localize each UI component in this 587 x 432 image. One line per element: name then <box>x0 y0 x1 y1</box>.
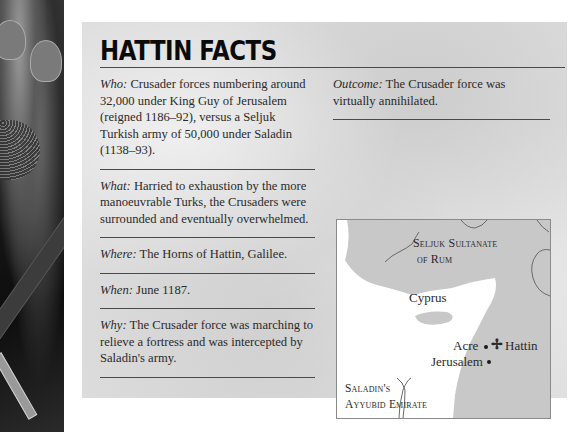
map-label-saladins: Saladin's <box>345 382 390 394</box>
map-label-acre: Acre <box>453 338 478 354</box>
facts-right-column: Outcome: The Crusader force was virtuall… <box>333 68 550 120</box>
fact-text: The Horns of Hattin, Galilee. <box>137 247 288 261</box>
map-label-jerusalem: Jerusalem <box>431 354 483 370</box>
helmet-shape <box>30 40 62 82</box>
fact-label: Outcome: <box>333 77 383 91</box>
region-map: Seljuk Sultanate of Rum Cyprus Acre ✢ Ha… <box>336 219 551 419</box>
page-title: HATTIN FACTS <box>100 36 277 66</box>
facts-left-column: Who: Crusader forces numbering around 32… <box>100 68 315 378</box>
fact-text: June 1187. <box>133 283 190 297</box>
fact-when: When: June 1187. <box>100 274 315 310</box>
map-label-ayyubid: Ayyubid Emirate <box>345 398 427 410</box>
battle-cross-icon: ✢ <box>491 336 503 353</box>
fact-where: Where: The Horns of Hattin, Galilee. <box>100 238 315 274</box>
fact-what: What: Harried to exhaustion by the more … <box>100 170 315 239</box>
fact-text: Crusader forces numbering around 32,000 … <box>100 77 306 157</box>
helmet-shape <box>0 20 26 60</box>
fact-why: Why: The Crusader force was marching to … <box>100 309 315 378</box>
fact-label: When: <box>100 283 133 297</box>
map-label-hattin: Hattin <box>505 338 538 354</box>
map-label-cyprus: Cyprus <box>409 290 447 306</box>
fact-text: Harried to exhaustion by the more manoeu… <box>100 179 308 226</box>
fact-who: Who: Crusader forces numbering around 32… <box>100 68 315 170</box>
fact-outcome: Outcome: The Crusader force was virtuall… <box>333 68 550 120</box>
fact-label: Where: <box>100 247 137 261</box>
map-label-seljuk: Seljuk Sultanate <box>413 236 497 251</box>
fact-label: Why: <box>100 318 127 332</box>
fact-label: What: <box>100 179 131 193</box>
chainmail-shape <box>0 120 40 180</box>
fact-text: The Crusader force was marching to relie… <box>100 318 313 365</box>
crusader-illustration <box>0 0 64 432</box>
strap-shape <box>0 199 64 342</box>
map-label-rum: of Rum <box>417 252 452 267</box>
fact-label: Who: <box>100 77 127 91</box>
sword-shape <box>0 352 37 419</box>
